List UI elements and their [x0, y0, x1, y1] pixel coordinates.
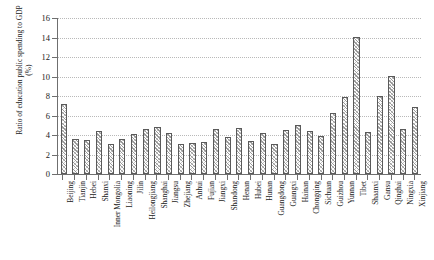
plot-area: 0246810121416 — [57, 18, 421, 175]
x-axis-label-slot: Shandong — [221, 181, 233, 259]
bar-slot — [163, 18, 175, 174]
y-axis-tick-label: 6 — [46, 111, 50, 121]
bar-slot — [315, 18, 327, 174]
bar — [178, 144, 184, 174]
x-axis-label-slot: Shanghai — [151, 181, 163, 259]
bar — [166, 133, 172, 174]
x-axis-tick-slot — [292, 175, 304, 180]
x-axis-tick — [227, 175, 228, 180]
x-axis-tick-slot — [80, 175, 92, 180]
x-axis-label-slot: Shaanxi — [362, 181, 374, 259]
x-axis-tick — [321, 175, 322, 180]
x-axis-tick — [168, 175, 169, 180]
x-axis-tick — [332, 175, 333, 180]
bar — [154, 127, 160, 174]
bar — [248, 141, 254, 174]
bar-slot — [362, 18, 374, 174]
bar — [295, 125, 301, 174]
bar-slot — [105, 18, 117, 174]
x-axis-tick — [285, 175, 286, 180]
x-axis-tick-slot — [245, 175, 257, 180]
bar — [342, 97, 348, 174]
x-axis-tick-label: Xinjiang — [418, 181, 427, 207]
bar — [353, 37, 359, 174]
y-axis-tick-label: 0 — [46, 169, 50, 179]
bar-slot — [234, 18, 246, 174]
x-axis-label-slot: Inner Mongolia — [104, 181, 116, 259]
x-axis-label-slot: Anhui — [186, 181, 198, 259]
bar-slot — [269, 18, 281, 174]
x-axis-tick — [121, 175, 122, 180]
x-axis-tick-slot — [409, 175, 421, 180]
bar-slot — [117, 18, 129, 174]
x-axis-label-slot: Zhejiang — [174, 181, 186, 259]
bar-slot — [280, 18, 292, 174]
x-axis-tick — [414, 175, 415, 180]
x-axis-tick-slot — [350, 175, 362, 180]
bar-slot — [374, 18, 386, 174]
x-axis-label-slot: Henan — [233, 181, 245, 259]
bar-slot — [351, 18, 363, 174]
y-axis-tick-label: 2 — [46, 150, 50, 160]
bar — [84, 140, 90, 174]
bar-series — [58, 18, 421, 174]
bar — [400, 129, 406, 174]
bar-slot — [93, 18, 105, 174]
x-axis-tick-slot — [69, 175, 81, 180]
x-axis-tick — [262, 175, 263, 180]
bar — [260, 133, 266, 174]
x-axis-tick-slot — [327, 175, 339, 180]
x-axis-tick — [191, 175, 192, 180]
x-axis-label-slot: Guangdong — [268, 181, 280, 259]
bar-slot — [128, 18, 140, 174]
y-axis-title: Ratio of education public spending to GD… — [4, 0, 44, 140]
bar — [377, 96, 383, 175]
bar-slot — [304, 18, 316, 174]
x-axis-label-slot: Tianjin — [69, 181, 81, 259]
y-axis-tick-label: 8 — [46, 91, 50, 101]
x-axis-tick — [379, 175, 380, 180]
bar — [225, 137, 231, 174]
bar — [131, 134, 137, 174]
x-axis-tick-slot — [174, 175, 186, 180]
x-axis-tick — [145, 175, 146, 180]
x-axis-tick — [403, 175, 404, 180]
bar-slot — [210, 18, 222, 174]
x-axis-label-slot: Jiangsu — [163, 181, 175, 259]
x-axis-label-slot: Sichuan — [315, 181, 327, 259]
x-axis-label-slot: Jilin — [127, 181, 139, 259]
x-axis-label-slot: Gansu — [374, 181, 386, 259]
x-axis-label-slot: Xinjiang — [409, 181, 421, 259]
x-axis-label-slot: Beijing — [57, 181, 69, 259]
x-axis-tick-slot — [186, 175, 198, 180]
bar-slot — [198, 18, 210, 174]
x-axis-tick-slot — [163, 175, 175, 180]
x-axis-tick — [215, 175, 216, 180]
bar-slot — [386, 18, 398, 174]
x-axis-tick — [98, 175, 99, 180]
x-axis-tick — [86, 175, 87, 180]
y-axis-tick-label: 12 — [42, 52, 51, 62]
x-axis-label-slot: Hebei — [80, 181, 92, 259]
x-axis-tick-slot — [362, 175, 374, 180]
bar — [365, 132, 371, 174]
x-axis-tick — [391, 175, 392, 180]
x-axis-label-slot: Chongqing — [303, 181, 315, 259]
bar — [96, 131, 102, 174]
x-axis-label-slot: Hunan — [256, 181, 268, 259]
x-axis-tick-slot — [116, 175, 128, 180]
bar — [412, 107, 418, 174]
x-axis-tick — [203, 175, 204, 180]
x-axis-label-slot: Shanxi — [92, 181, 104, 259]
bar-slot — [257, 18, 269, 174]
bar — [271, 144, 277, 174]
bar — [388, 76, 394, 174]
x-axis-tick-slot — [303, 175, 315, 180]
x-axis-label-slot: Ningxia — [397, 181, 409, 259]
x-axis-label-slot: Qinghai — [386, 181, 398, 259]
bar-slot — [175, 18, 187, 174]
x-axis-tick — [250, 175, 251, 180]
bar-slot — [81, 18, 93, 174]
x-axis-tick-slot — [92, 175, 104, 180]
x-axis-tick — [356, 175, 357, 180]
